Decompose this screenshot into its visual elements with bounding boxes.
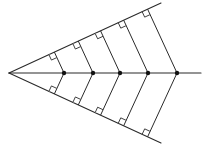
lower-perpendicular-5 [148, 73, 177, 137]
lower-perpendicular-4 [124, 73, 148, 126]
upper-perpendicular-4 [124, 20, 148, 73]
bisector-point-2 [91, 71, 95, 75]
lower-perpendicular-3 [101, 73, 120, 115]
lower-ray [9, 73, 161, 143]
upper-perpendicular-1 [54, 52, 64, 73]
upper-ray [9, 3, 161, 73]
lower-perpendicular-1 [54, 73, 64, 94]
upper-perpendicular-3 [101, 31, 120, 73]
lower-perpendicular-2 [78, 73, 93, 105]
angle-rays [9, 3, 201, 143]
bisector-point-5 [175, 71, 179, 75]
bisector-point-1 [62, 71, 66, 75]
bisector-point-4 [146, 71, 150, 75]
upper-perpendicular-2 [78, 41, 93, 73]
bisector-point-3 [118, 71, 122, 75]
angle-bisector-diagram [0, 0, 204, 151]
upper-perpendicular-5 [148, 9, 177, 73]
